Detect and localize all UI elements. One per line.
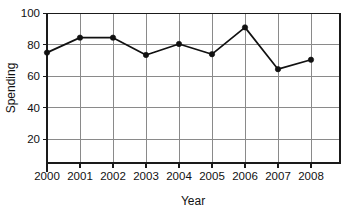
data-point [77, 35, 82, 40]
x-tick-label: 2000 [34, 170, 60, 182]
chart-background [0, 0, 345, 221]
data-point [44, 50, 49, 55]
x-tick-label: 2005 [199, 170, 225, 182]
y-axis-title: Spending [4, 63, 18, 114]
x-axis-title: Year [181, 194, 205, 208]
x-tick-label: 2007 [265, 170, 291, 182]
data-point [275, 66, 280, 71]
y-tick-label: 40 [27, 102, 40, 114]
data-point [176, 41, 181, 46]
x-tick-label: 2001 [67, 170, 93, 182]
x-tick-label: 2008 [298, 170, 324, 182]
y-tick-label: 60 [27, 70, 40, 82]
y-tick-label: 100 [21, 7, 40, 19]
data-point [110, 35, 115, 40]
data-point [242, 25, 247, 30]
data-point [143, 52, 148, 57]
y-tick-label: 20 [27, 133, 40, 145]
y-tick-label: 80 [27, 39, 40, 51]
x-tick-label: 2002 [100, 170, 126, 182]
data-point [209, 52, 214, 57]
x-tick-label: 2004 [166, 170, 192, 182]
x-tick-label: 2003 [133, 170, 159, 182]
data-point [308, 57, 313, 62]
x-tick-labels: 200020012002200320042005200620072008 [34, 170, 324, 182]
x-tick-label: 2006 [232, 170, 258, 182]
chart-canvas: 20406080100 2000200120022003200420052006… [0, 0, 345, 221]
line-chart: 20406080100 2000200120022003200420052006… [0, 0, 345, 221]
